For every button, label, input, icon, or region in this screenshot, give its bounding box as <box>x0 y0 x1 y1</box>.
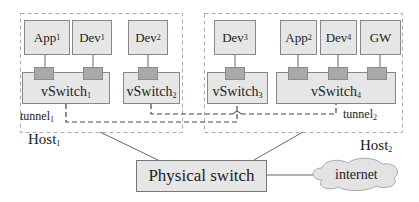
port-app1 <box>34 67 54 80</box>
node-dev1: Dev1 <box>72 20 112 55</box>
tunnel2-path <box>151 104 233 114</box>
port-dev1 <box>83 67 103 80</box>
port-dev2 <box>138 67 158 80</box>
tunnel1-label: tunnel1 <box>20 110 54 124</box>
node-dev3: Dev3 <box>214 20 256 55</box>
tunnel2-label: tunnel2 <box>343 108 377 122</box>
physical-switch: Physical switch <box>136 160 267 192</box>
port-dev3 <box>225 67 245 80</box>
host2-label: Host2 <box>360 138 392 154</box>
host1-label: Host1 <box>28 132 60 148</box>
node-dev2: Dev2 <box>128 20 168 55</box>
node-gw: GW <box>360 20 401 55</box>
node-dev4: Dev4 <box>320 20 357 55</box>
node-app2: App2 <box>280 20 317 55</box>
internet-label: internet <box>335 167 378 183</box>
port-gw <box>367 67 387 80</box>
node-app1: App1 <box>24 20 70 55</box>
port-dev4 <box>328 67 348 80</box>
port-app2 <box>288 67 308 80</box>
